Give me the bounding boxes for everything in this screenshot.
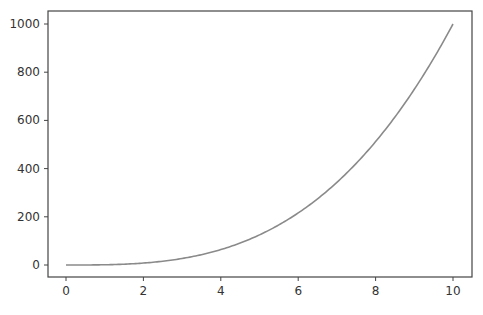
plot-frame bbox=[48, 11, 472, 277]
y-axis: 02004006008001000 bbox=[9, 17, 48, 272]
x-tick-label: 4 bbox=[217, 284, 225, 298]
line-chart: 0246810 02004006008001000 bbox=[0, 0, 483, 315]
x-tick-label: 8 bbox=[372, 284, 380, 298]
x-tick-label: 0 bbox=[62, 284, 70, 298]
y-tick-label: 1000 bbox=[9, 17, 40, 31]
y-tick-label: 0 bbox=[32, 258, 40, 272]
y-tick-label: 400 bbox=[17, 162, 40, 176]
x-tick-label: 6 bbox=[294, 284, 302, 298]
x-tick-label: 10 bbox=[445, 284, 460, 298]
y-tick-label: 800 bbox=[17, 65, 40, 79]
plot-area bbox=[48, 11, 472, 277]
x-tick-label: 2 bbox=[140, 284, 148, 298]
y-tick-label: 200 bbox=[17, 210, 40, 224]
x-axis: 0246810 bbox=[62, 277, 460, 298]
y-tick-label: 600 bbox=[17, 113, 40, 127]
